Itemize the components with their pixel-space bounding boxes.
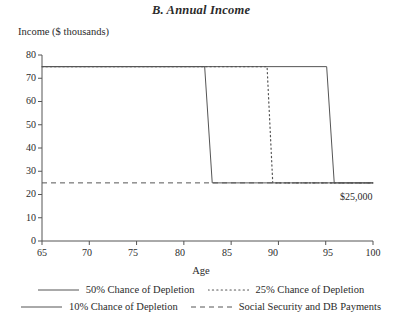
- series-line-1: [42, 67, 373, 183]
- plot-area: [0, 0, 402, 260]
- chart-figure: B. Annual Income Income ($ thousands) 80…: [0, 0, 402, 325]
- series-line-2: [42, 67, 373, 183]
- legend-label-10-pct: 10% Chance of Depletion: [69, 301, 178, 312]
- legend-label-50-pct: 50% Chance of Depletion: [86, 284, 195, 295]
- legend-item-50-pct[interactable]: 50% Chance of Depletion: [38, 284, 195, 295]
- legend-item-social-security[interactable]: Social Security and DB Payments: [191, 301, 381, 312]
- y-axis-ticks: [38, 55, 42, 241]
- legend-row-2: 10% Chance of Depletion Social Security …: [0, 298, 402, 315]
- legend-item-25-pct[interactable]: 25% Chance of Depletion: [208, 284, 365, 295]
- x-axis-label: Age: [0, 265, 402, 276]
- series-line-0: [42, 67, 373, 183]
- legend-swatch-solid-2-icon: [21, 303, 62, 311]
- legend-row-1: 50% Chance of Depletion 25% Chance of De…: [0, 281, 402, 298]
- legend-swatch-dotted-icon: [208, 286, 249, 294]
- chart-legend: 50% Chance of Depletion 25% Chance of De…: [0, 281, 402, 321]
- legend-swatch-dashed-icon: [191, 303, 232, 311]
- legend-label-25-pct: 25% Chance of Depletion: [256, 284, 365, 295]
- legend-item-10-pct[interactable]: 10% Chance of Depletion: [21, 301, 178, 312]
- data-series-group: [42, 67, 373, 183]
- legend-label-social-security: Social Security and DB Payments: [239, 301, 381, 312]
- x-axis-ticks: [42, 241, 373, 245]
- legend-swatch-solid-icon: [38, 286, 79, 294]
